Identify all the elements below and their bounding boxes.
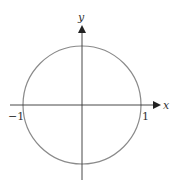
x-axis-label: x	[163, 99, 170, 112]
tick-label-neg-one: −1	[8, 110, 24, 123]
tick-label-pos-one: 1	[142, 110, 149, 123]
y-axis-label: y	[77, 11, 85, 24]
unit-circle-diagram: y x −1 1	[0, 0, 179, 186]
